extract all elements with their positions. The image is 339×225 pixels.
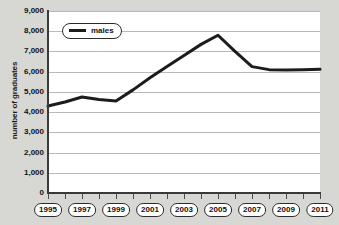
x-axis-tick bbox=[65, 194, 66, 199]
x-axis-tick bbox=[201, 194, 202, 199]
x-axis-tick bbox=[235, 194, 236, 199]
y-axis-tick-label: 7,000 bbox=[10, 47, 44, 55]
y-axis-tick-label: 6,000 bbox=[10, 68, 44, 76]
line-chart: number of graduates 9,0008,0007,0006,000… bbox=[0, 0, 339, 225]
x-axis-tick-label: 2011 bbox=[306, 203, 333, 217]
y-axis-line bbox=[47, 10, 49, 194]
y-axis-tick-label: 3,000 bbox=[10, 128, 44, 136]
y-axis-tick-label: 9,000 bbox=[10, 7, 44, 15]
x-axis-tick bbox=[116, 194, 117, 199]
series-line-males bbox=[48, 35, 320, 106]
y-axis-tick-label: 4,000 bbox=[10, 108, 44, 116]
x-axis-tick bbox=[252, 194, 253, 199]
x-axis-tick bbox=[303, 194, 304, 199]
x-axis-tick bbox=[184, 194, 185, 199]
y-axis-tick-label: 0 bbox=[10, 189, 44, 197]
x-axis-tick bbox=[82, 194, 83, 199]
legend-swatch-males bbox=[69, 29, 86, 32]
y-axis-tick-label: 1,000 bbox=[10, 169, 44, 177]
y-axis-tick-label: 8,000 bbox=[10, 27, 44, 35]
y-axis-tick-label: 5,000 bbox=[10, 88, 44, 96]
x-axis-tick-label: 2009 bbox=[272, 203, 300, 217]
x-axis-tick-label: 1997 bbox=[68, 203, 96, 217]
x-axis-tick bbox=[48, 194, 49, 199]
x-axis-tick bbox=[286, 194, 287, 199]
legend-label-males: males bbox=[91, 26, 114, 35]
x-axis-tick-label: 2003 bbox=[170, 203, 198, 217]
chart-legend: males bbox=[62, 23, 122, 39]
y-axis-tick-label: 2,000 bbox=[10, 149, 44, 157]
x-axis-tick-label: 1999 bbox=[102, 203, 130, 217]
x-axis-tick-label: 1995 bbox=[34, 203, 62, 217]
x-axis-tick-label: 2007 bbox=[238, 203, 266, 217]
x-axis-tick bbox=[133, 194, 134, 199]
y-axis-tick-labels: 9,0008,0007,0006,0005,0004,0003,0002,000… bbox=[4, 0, 44, 225]
x-axis-tick bbox=[167, 194, 168, 199]
x-axis-tick bbox=[218, 194, 219, 199]
x-axis-tick-label: 2001 bbox=[136, 203, 164, 217]
x-axis-tick bbox=[99, 194, 100, 199]
x-axis-tick bbox=[269, 194, 270, 199]
x-axis-tick bbox=[320, 194, 321, 199]
x-axis-tick-label: 2005 bbox=[204, 203, 232, 217]
x-axis-tick bbox=[150, 194, 151, 199]
